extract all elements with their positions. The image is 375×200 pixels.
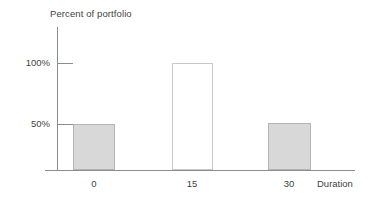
bar-chart: Percent of portfolio 100% 50% 0 15 30 Du… (0, 0, 375, 200)
bar-category-0 (73, 124, 115, 170)
bar-category-15 (172, 63, 213, 170)
y-tick-mark-100 (58, 63, 73, 64)
y-tick-mark-50 (58, 124, 73, 125)
x-axis-line (45, 170, 355, 171)
x-tick-label-0: 0 (79, 178, 109, 189)
x-axis-title: Duration (317, 178, 353, 189)
y-tick-label-100: 100% (10, 58, 50, 68)
y-axis-line (57, 27, 58, 171)
bar-category-30 (268, 123, 311, 170)
chart-title: Percent of portfolio (50, 8, 132, 20)
x-tick-label-15: 15 (177, 178, 207, 189)
y-tick-label-50: 50% (10, 119, 50, 129)
x-tick-label-30: 30 (274, 178, 304, 189)
